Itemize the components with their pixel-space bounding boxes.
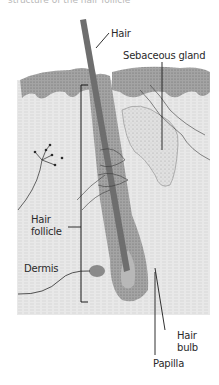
dermis-vessel — [89, 265, 105, 277]
label-hair-follicle-1: Hair — [31, 214, 51, 225]
label-sebaceous-gland: Sebaceous gland — [123, 50, 205, 61]
hair-follicle-diagram: structure of the hair follicle — [0, 0, 219, 385]
label-hair: Hair — [111, 28, 131, 39]
label-hair-bulb-1: Hair — [177, 330, 197, 341]
label-papilla: Papilla — [153, 358, 184, 369]
label-hair-bulb-2: bulb — [177, 342, 198, 353]
label-dermis: Dermis — [24, 263, 58, 274]
label-hair-follicle-2: follicle — [31, 226, 62, 237]
